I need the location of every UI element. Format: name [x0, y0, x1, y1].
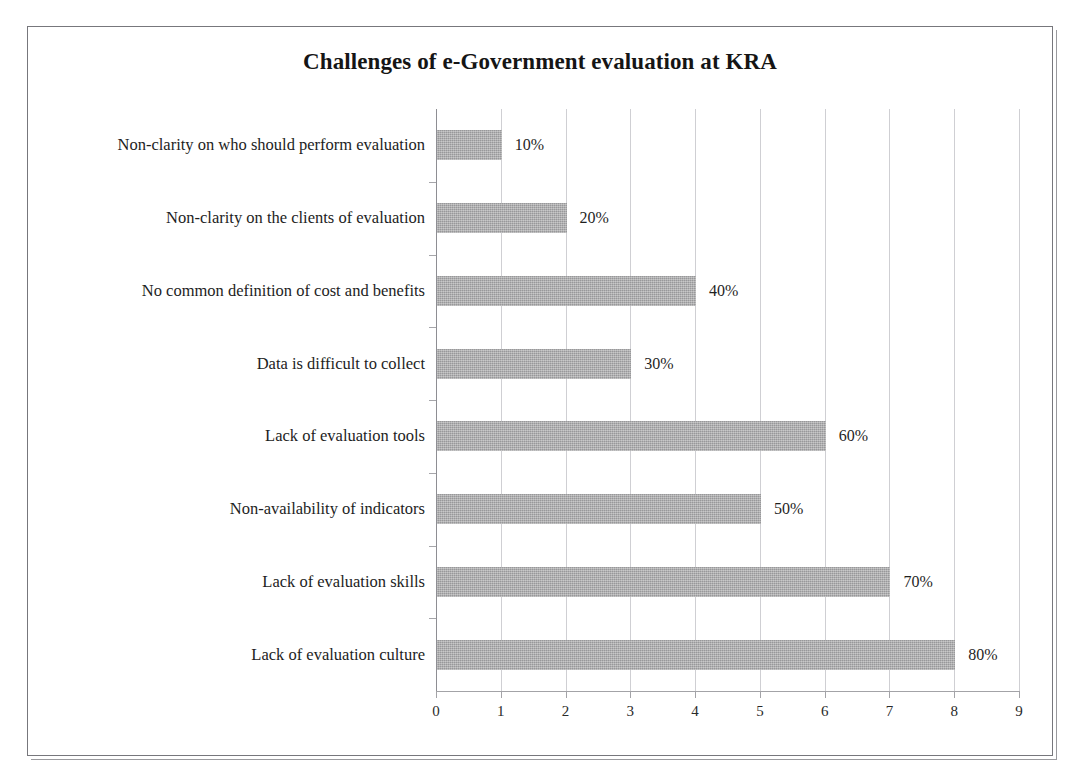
x-tick-label: 6	[821, 703, 829, 720]
x-tick-label: 2	[562, 703, 570, 720]
category-label: Non-clarity on the clients of evaluation	[16, 203, 436, 233]
gridline-9	[1019, 109, 1020, 691]
bar-value-label: 60%	[839, 421, 868, 451]
x-tick-label: 0	[432, 703, 440, 720]
gridline-4	[695, 109, 696, 691]
bar-value-label: 80%	[968, 640, 997, 670]
category-axis-labels: Non-clarity on who should perform evalua…	[16, 109, 436, 691]
bar[interactable]	[437, 276, 696, 306]
chart-title: Challenges of e-Government evaluation at…	[28, 49, 1052, 75]
category-label: Lack of evaluation culture	[16, 640, 436, 670]
x-tick-label: 5	[756, 703, 764, 720]
bar-value-label: 50%	[774, 494, 803, 524]
x-tick-1	[501, 691, 502, 698]
bar[interactable]	[437, 567, 890, 597]
bar[interactable]	[437, 349, 631, 379]
x-tick-8	[954, 691, 955, 698]
category-label: Lack of evaluation skills	[16, 567, 436, 597]
x-tick-label: 7	[886, 703, 894, 720]
bar-value-label: 10%	[515, 130, 544, 160]
category-label: Non-clarity on who should perform evalua…	[16, 130, 436, 160]
x-tick-label: 9	[1015, 703, 1023, 720]
x-tick-label: 1	[497, 703, 505, 720]
plot-area: 10%20%40%30%60%50%70%80% Non-clarity on …	[436, 109, 1019, 691]
gridline-8	[954, 109, 955, 691]
x-axis-line	[436, 691, 1019, 692]
bar-value-label: 30%	[644, 349, 673, 379]
x-tick-6	[825, 691, 826, 698]
bar[interactable]	[437, 203, 567, 233]
x-tick-5	[760, 691, 761, 698]
bar-value-label: 20%	[580, 203, 609, 233]
category-label: Non-availability of indicators	[16, 494, 436, 524]
bar[interactable]	[437, 130, 502, 160]
category-label: Data is difficult to collect	[16, 349, 436, 379]
value-axis-line	[436, 109, 437, 691]
x-tick-3	[630, 691, 631, 698]
category-label: No common definition of cost and benefit…	[16, 276, 436, 306]
scanned-text-remnant	[0, 0, 1080, 14]
gridline-7	[889, 109, 890, 691]
gridline-3	[630, 109, 631, 691]
x-tick-label: 4	[691, 703, 699, 720]
x-tick-0	[436, 691, 437, 698]
gridline-1	[501, 109, 502, 691]
bar[interactable]	[437, 640, 955, 670]
x-tick-4	[695, 691, 696, 698]
chart-frame: Challenges of e-Government evaluation at…	[27, 26, 1053, 756]
bar-value-label: 40%	[709, 276, 738, 306]
bar-value-label: 70%	[903, 567, 932, 597]
gridline-2	[566, 109, 567, 691]
bar[interactable]	[437, 494, 761, 524]
gridline-6	[825, 109, 826, 691]
bar[interactable]	[437, 421, 826, 451]
gridline-5	[760, 109, 761, 691]
x-tick-2	[566, 691, 567, 698]
x-tick-9	[1019, 691, 1020, 698]
category-label: Lack of evaluation tools	[16, 421, 436, 451]
x-tick-label: 3	[627, 703, 635, 720]
x-tick-label: 8	[950, 703, 958, 720]
x-tick-7	[889, 691, 890, 698]
